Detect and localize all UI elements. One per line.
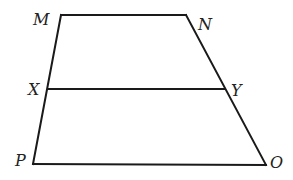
segment-PO xyxy=(33,164,266,165)
vertex-label-P: P xyxy=(14,151,26,170)
vertex-label-Y: Y xyxy=(231,81,243,100)
vertex-label-O: O xyxy=(270,153,283,172)
vertex-label-M: M xyxy=(32,10,50,29)
vertex-label-X: X xyxy=(26,80,40,99)
vertex-label-N: N xyxy=(197,15,213,34)
trapezoid-diagram: M N X Y P O xyxy=(0,0,293,180)
